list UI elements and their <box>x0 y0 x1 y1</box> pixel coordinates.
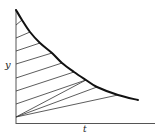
hatch-line <box>16 80 86 104</box>
x-axis-label: t <box>83 125 87 134</box>
hatch-line <box>16 43 40 51</box>
hatch-lines <box>16 20 86 104</box>
diagram-canvas <box>0 0 156 135</box>
decay-curve <box>16 10 138 100</box>
y-axis-label: y <box>5 60 11 70</box>
hatch-line <box>16 20 22 25</box>
fan-line <box>16 80 86 117</box>
hatch-line <box>16 53 52 64</box>
hatch-line <box>16 63 62 78</box>
hatch-line <box>16 32 30 38</box>
